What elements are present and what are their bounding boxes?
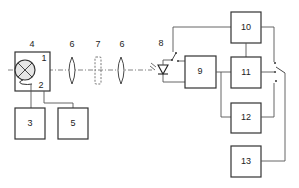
label-9: 9 <box>197 66 202 76</box>
label-5: 5 <box>70 118 75 128</box>
switch-8-icon <box>171 52 185 62</box>
label-10: 10 <box>241 22 251 32</box>
sample-7 <box>95 57 101 84</box>
wire-pd-9 <box>163 74 185 82</box>
wire-4-5 <box>44 91 73 108</box>
label-12: 12 <box>241 112 251 122</box>
label-2: 2 <box>38 80 43 90</box>
wire-10-switch <box>261 27 274 62</box>
lens-icon-6b <box>118 57 124 84</box>
wire-pd-top <box>163 60 172 65</box>
label-8: 8 <box>158 38 163 48</box>
wire-9-12 <box>221 72 231 117</box>
label-11: 11 <box>241 67 250 77</box>
label-6a: 6 <box>69 39 74 49</box>
lens-icon-6a <box>69 57 75 84</box>
wire-12-switch <box>261 83 274 117</box>
diagram-canvas: 4 1 2 3 5 6 7 6 8 9 10 1 <box>0 0 299 188</box>
label-4: 4 <box>29 39 34 49</box>
label-1: 1 <box>41 53 46 63</box>
wire-8-10 <box>173 27 231 52</box>
selector-switch-icon <box>274 62 285 82</box>
photodiode-icon <box>150 63 168 74</box>
label-13: 13 <box>241 156 251 166</box>
label-6b: 6 <box>119 39 124 49</box>
label-7: 7 <box>95 39 100 49</box>
label-3: 3 <box>27 118 32 128</box>
